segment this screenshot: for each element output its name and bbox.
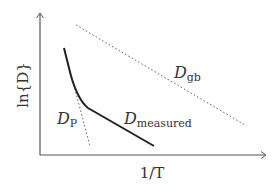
label-d-measured: Dmeasured	[123, 109, 192, 130]
series-d-gb-line	[76, 25, 245, 125]
svg-text:ln{D}: ln{D}	[14, 62, 32, 108]
y-axis-label: ln{D}	[14, 62, 32, 108]
label-d-gb: Dgb	[173, 63, 201, 84]
x-axis-label: 1/T	[140, 164, 165, 182]
axes	[37, 13, 267, 159]
label-d-p: DP	[56, 109, 78, 130]
diffusion-arrhenius-diagram: ln{D} 1/T Dgb DP Dmeasured	[0, 0, 276, 191]
